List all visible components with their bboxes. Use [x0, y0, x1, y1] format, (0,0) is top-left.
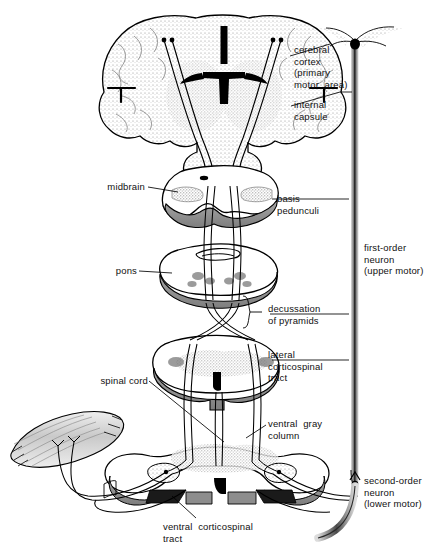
ventral-corticospinal-tract-left [186, 492, 212, 504]
substantia-nigra-left [172, 187, 203, 202]
medulla-gray-stipple [176, 350, 267, 377]
cortical-cell-body-right [279, 38, 284, 43]
upper-motor-neuron-soma [350, 39, 360, 50]
label-first-order-neuron: first-order neuron (upper motor) [364, 242, 424, 277]
cerebral-aqueduct [200, 176, 208, 180]
label-ventral-gray-column: ventral gray column [268, 418, 322, 441]
label-midbrain: midbrain [93, 181, 145, 193]
basal-nuclei-stipple-right [222, 60, 282, 132]
label-basis-pedunculi: basis pedunculi [277, 193, 319, 216]
lateral-corticospinal-tract-patch-left [168, 357, 184, 367]
substantia-nigra-right [241, 187, 272, 202]
label-cerebral-cortex: cerebral cortex (primary motor area) [294, 44, 348, 90]
central-canal [213, 372, 221, 391]
label-internal-capsule: internal capsule [294, 99, 328, 122]
ventricle-vertical-slit [221, 26, 228, 64]
cortical-cell-body-left [162, 38, 167, 43]
midbrain-cross-section [162, 166, 278, 228]
label-second-order-neuron: second-order neuron (lower motor) [364, 475, 422, 510]
label-lateral-corticospinal-tract: lateral corticospinal tract [268, 349, 323, 384]
spinal-gray-matter [171, 444, 279, 473]
ventral-corticospinal-tract-right [228, 492, 256, 504]
cortical-cell-body-right-2 [271, 38, 276, 43]
cortical-cell-body-left-2 [170, 38, 175, 43]
label-ventral-corticospinal-tract: ventral corticospinal tract [163, 521, 253, 544]
label-pons: pons [105, 265, 137, 277]
label-decussation-of-pyramids: decussation of pyramids [268, 303, 320, 326]
label-spinal-cord: spinal cord [72, 375, 148, 387]
